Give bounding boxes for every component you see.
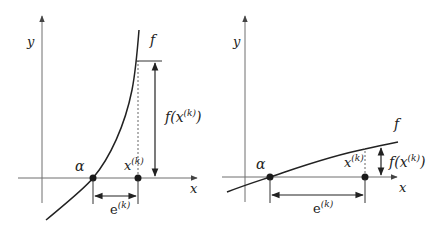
left-error-label: e(k) <box>110 200 131 217</box>
svg-text:x(k): x(k) <box>124 156 144 173</box>
right-residual-label: f(x(k)) <box>388 153 426 170</box>
svg-text:f(x(k)): f(x(k)) <box>164 108 202 125</box>
svg-text:e(k): e(k) <box>110 200 131 217</box>
svg-text:x(k): x(k) <box>344 153 364 170</box>
right-x-axis-label: x <box>399 180 407 195</box>
right-y-axis-label: y <box>232 34 241 49</box>
left-curve-label: f <box>149 32 158 48</box>
right-curve-label: f <box>393 116 402 132</box>
right-iterate-label: x(k) <box>344 153 364 170</box>
figure: y x f f(x(k)) α x(k) e(k) y <box>0 0 443 229</box>
right-error-label: e(k) <box>313 199 334 216</box>
left-root-label: α <box>75 158 85 174</box>
right-root-label: α <box>256 156 266 172</box>
left-iterate-label: x(k) <box>124 156 144 173</box>
svg-text:f(x(k)): f(x(k)) <box>388 153 426 170</box>
left-residual-label: f(x(k)) <box>164 108 202 125</box>
left-x-axis-label: x <box>190 181 198 196</box>
left-panel: y x f f(x(k)) α x(k) e(k) <box>18 16 202 220</box>
right-panel: y x f f(x(k)) α x(k) e(k) <box>222 16 426 216</box>
svg-text:e(k): e(k) <box>313 199 334 216</box>
right-curve-f <box>227 142 398 192</box>
left-y-axis-label: y <box>26 34 35 49</box>
